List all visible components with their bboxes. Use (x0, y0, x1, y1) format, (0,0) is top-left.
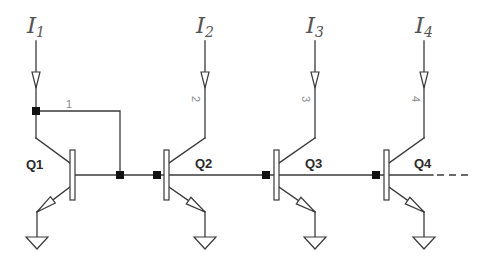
ground-icon (304, 237, 326, 249)
transistor-q3: Q3 (274, 138, 326, 249)
input-wire-3 (311, 41, 319, 138)
wire-label-4: 4 (410, 96, 422, 102)
wire-label-2: 2 (190, 96, 202, 102)
emitter-arrow-icon (405, 197, 424, 212)
current-arrow-icon (311, 72, 319, 88)
transistor-label-q1: Q1 (26, 157, 43, 172)
emitter-arrow-icon (186, 197, 205, 212)
input-wire-1 (32, 41, 40, 138)
base-bar (384, 150, 389, 200)
current-label-i4: I4 (414, 12, 433, 40)
transistor-q4: Q4 (384, 138, 435, 249)
current-arrow-icon (32, 72, 40, 88)
svg-text:I3: I3 (305, 12, 324, 40)
transistor-label-q3: Q3 (305, 156, 322, 171)
current-arrow-icon (420, 72, 428, 88)
feedback-wire (36, 111, 120, 175)
current-arrow-icon (201, 72, 209, 88)
current-mirror-schematic: I1 I2 I3 I4 1 2 3 4 (0, 0, 485, 262)
svg-text:I4: I4 (414, 12, 433, 40)
ground-icon (26, 237, 48, 249)
ground-icon (194, 237, 216, 249)
input-wire-4 (420, 41, 428, 138)
junction-node-q4-base (372, 171, 380, 179)
transistor-label-q4: Q4 (414, 156, 432, 171)
base-bar (274, 150, 279, 200)
junction-node-q2-base (153, 171, 161, 179)
junction-node-q3-base (262, 171, 270, 179)
base-bar (70, 150, 75, 200)
transistor-q1: Q1 (26, 138, 75, 249)
junction-node-q1-collector (32, 107, 40, 115)
wire-label-1: 1 (66, 98, 72, 110)
svg-text:I1: I1 (26, 12, 45, 40)
emitter-arrow-icon (37, 197, 55, 212)
current-label-i2: I2 (195, 12, 214, 40)
junction-node-q1-base (116, 171, 124, 179)
transistor-q2: Q2 (164, 138, 216, 249)
svg-text:I2: I2 (195, 12, 214, 40)
input-wire-2 (201, 41, 209, 138)
ground-icon (413, 237, 435, 249)
wire-label-3: 3 (300, 96, 312, 102)
current-label-i3: I3 (305, 12, 324, 40)
current-label-i1: I1 (26, 12, 45, 40)
base-bar (164, 150, 169, 200)
emitter-arrow-icon (296, 197, 315, 212)
transistor-label-q2: Q2 (195, 156, 212, 171)
